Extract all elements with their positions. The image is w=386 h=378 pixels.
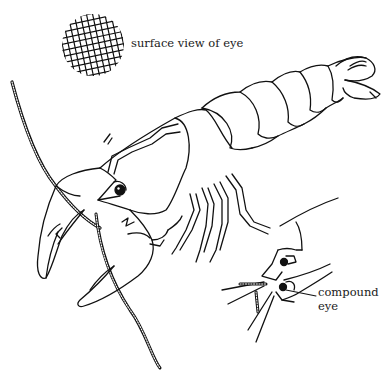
abdomen — [202, 57, 380, 150]
compound-eye-label-line1: compound — [318, 285, 379, 299]
walking-legs — [172, 174, 270, 262]
antenna-left — [12, 82, 100, 228]
compound-eye-label: compound eye — [318, 285, 379, 313]
upper-legs — [104, 124, 180, 174]
crayfish-illustration — [0, 0, 386, 378]
closeup-head — [222, 198, 338, 342]
surface-view-eye-icon — [49, 3, 138, 87]
surface-view-label: surface view of eye — [131, 36, 243, 50]
crayfish-diagram: surface view of eye compound eye — [0, 0, 386, 378]
compound-eye-label-line2: eye — [318, 299, 379, 313]
